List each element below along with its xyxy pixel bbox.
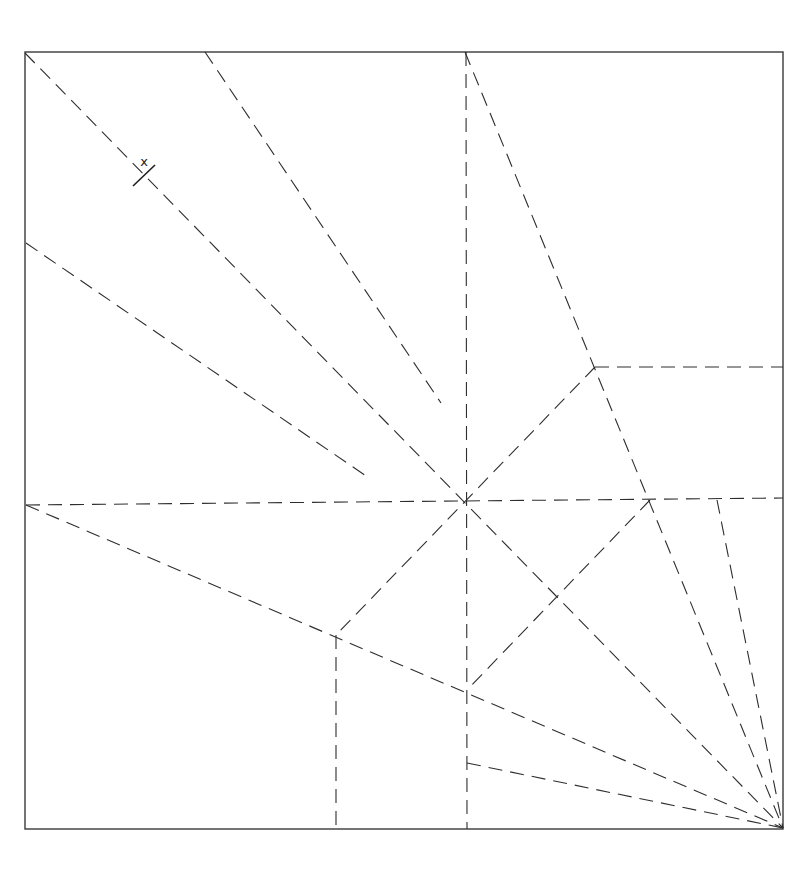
crease-lines-group bbox=[25, 52, 783, 829]
crease-short-diagonal-left bbox=[26, 243, 369, 478]
crease-top-steep-diagonal bbox=[465, 52, 783, 828]
crease-right-steep-to-corner bbox=[717, 500, 783, 828]
crease-anti-diagonal-lower bbox=[467, 500, 650, 690]
crease-center-vertical bbox=[466, 52, 467, 829]
crease-short-diagonal-top bbox=[205, 52, 441, 403]
crease-main-diagonal bbox=[25, 53, 783, 828]
crease-horizontal-middle bbox=[26, 498, 783, 505]
reference-label-x: x bbox=[140, 154, 148, 169]
crease-pattern-diagram: x bbox=[0, 0, 800, 872]
crease-lower-to-corner bbox=[467, 763, 783, 828]
crease-left-to-corner bbox=[26, 505, 783, 828]
crease-anti-diagonal-center bbox=[336, 367, 595, 635]
